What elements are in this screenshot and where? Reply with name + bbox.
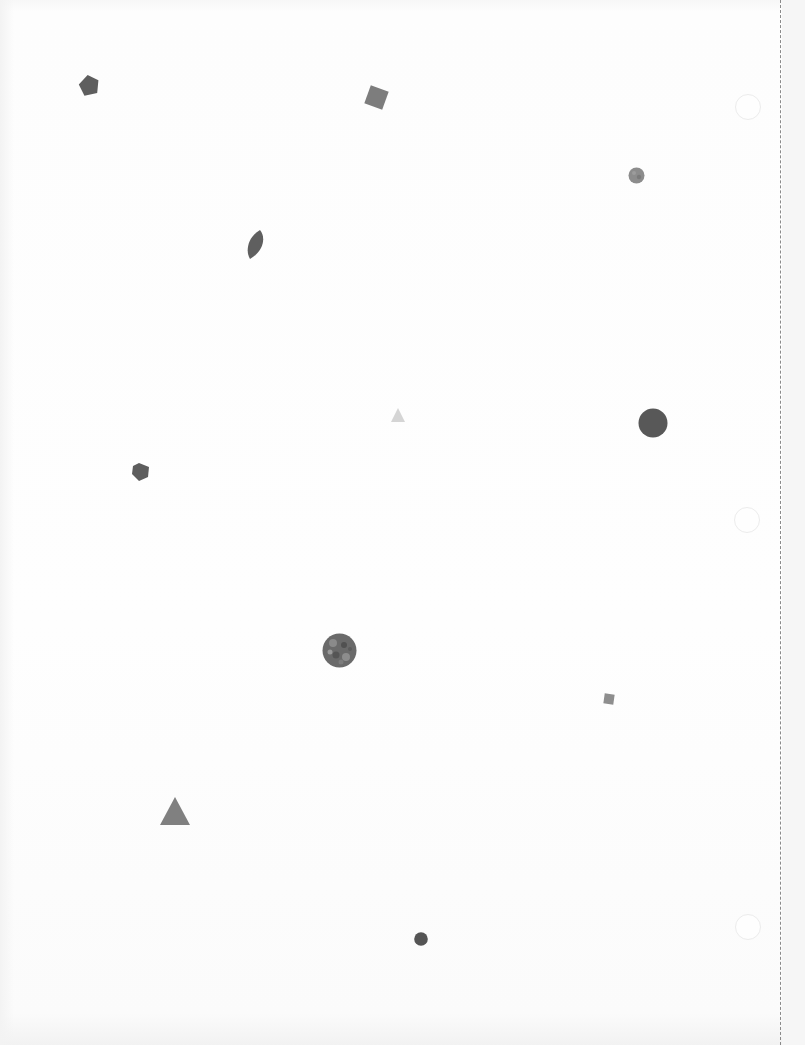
triangle-icon [160,797,190,825]
pentagon-icon [78,74,100,96]
paper-sheet [0,0,805,1045]
punch-hole-middle [734,507,760,533]
leaf-icon [246,229,266,260]
punch-hole-bottom [735,914,761,940]
square-icon [363,84,390,111]
square-icon [603,693,615,705]
triangle-icon [391,408,405,422]
circle-icon [628,167,645,184]
pentagon-icon [131,463,150,481]
perforation-line [780,0,781,1045]
binder-margin [782,0,805,1045]
punch-hole-top [735,94,761,120]
circle-icon [322,633,357,668]
circle-icon [414,932,428,946]
circle-icon [638,408,668,438]
